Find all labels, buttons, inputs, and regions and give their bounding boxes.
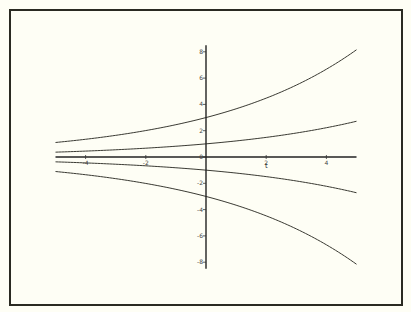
y-tick-label: 6 xyxy=(199,74,203,81)
plot-area: -4-224-8-6-4-202468 t xyxy=(0,0,411,312)
y-tick-label: -6 xyxy=(197,232,203,239)
y-tick-label: 4 xyxy=(199,100,203,107)
y-tick-label: -8 xyxy=(197,258,203,265)
x-tick-label: -2 xyxy=(143,159,149,166)
x-axis-label: t xyxy=(265,162,268,170)
y-tick-label: 8 xyxy=(199,48,203,55)
x-tick-label: 4 xyxy=(324,159,328,166)
y-tick-label: 2 xyxy=(199,127,203,134)
x-tick-label: -4 xyxy=(83,159,89,166)
y-tick-label: 0 xyxy=(199,153,203,160)
y-tick-label: -2 xyxy=(197,179,203,186)
y-tick-label: -4 xyxy=(197,206,203,213)
